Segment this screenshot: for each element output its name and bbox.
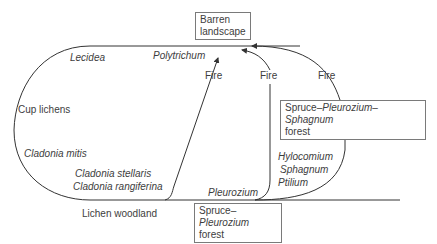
box2-text-pre: Spruce– (199, 205, 236, 216)
fire-label-1: Fire (205, 70, 222, 82)
fire-arrow-pleurozium (242, 50, 270, 70)
species-cup-lichens: Cup lichens (18, 104, 70, 116)
species-sphagnum: Sphagnum (280, 164, 328, 176)
species-cladonia-rangiferina: Cladonia rangiferina (73, 181, 163, 193)
spruce-pleurozium-box: Spruce–Pleurozium forest (194, 203, 282, 243)
box-text-sphagnum: Sphagnum (285, 114, 333, 125)
species-cladonia-stellaris: Cladonia stellaris (75, 168, 151, 180)
box2-text-forest: forest (199, 229, 277, 241)
species-cladonia-mitis: Cladonia mitis (24, 148, 87, 160)
species-ptilium: Ptilium (278, 177, 308, 189)
box-text-dash: – (372, 102, 378, 113)
species-lecidea: Lecidea (70, 52, 105, 64)
species-polytrichum: Polytrichum (153, 50, 205, 62)
box-text-pre: Spruce– (285, 102, 322, 113)
fire-label-3: Fire (318, 70, 335, 82)
box-text-pleurozium: Pleurozium (322, 102, 372, 113)
species-pleurozium: Pleurozium (208, 187, 258, 199)
branch-pleurozium (255, 84, 270, 200)
spruce-pleurozium-sphagnum-box: Spruce–Pleurozium–Sphagnum forest (280, 100, 426, 140)
box-text-forest: forest (285, 126, 421, 138)
barren-label-line1: Barren (200, 14, 246, 26)
barren-landscape-box: Barren landscape (195, 12, 251, 40)
species-hylocomium: Hylocomium (278, 151, 333, 163)
fire-label-2: Fire (260, 70, 277, 82)
node-lichen-woodland: Lichen woodland (82, 208, 157, 220)
barren-label-line2: landscape (200, 26, 246, 38)
box2-text-pleurozium: Pleurozium (199, 217, 249, 228)
